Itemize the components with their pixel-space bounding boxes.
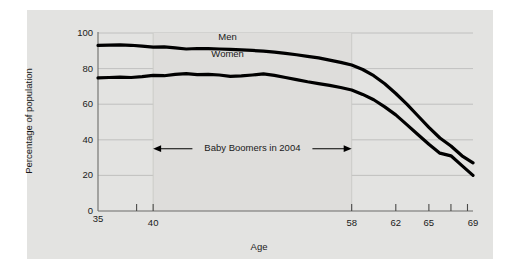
- x-axis-title: Age: [0, 236, 518, 254]
- x-tick-label-58: 58: [336, 217, 368, 228]
- y-axis-title-text: Percentage of population: [23, 68, 34, 174]
- series-label-men: Men: [218, 31, 236, 42]
- y-tick-label-20: 20: [60, 169, 93, 180]
- y-tick-label-60: 60: [60, 98, 93, 109]
- x-tick-label-40: 40: [137, 217, 169, 228]
- y-tick-label-40: 40: [60, 134, 93, 145]
- x-tick-label-69: 69: [457, 217, 489, 228]
- y-axis-title: Percentage of population: [18, 56, 36, 186]
- baby-boomer-annotation-text: Baby Boomers in 2004: [196, 142, 308, 153]
- x-tick-label-65: 65: [413, 217, 445, 228]
- y-tick-label-80: 80: [60, 63, 93, 74]
- series-label-women: Women: [211, 48, 244, 59]
- chart-figure: 020406080100 354058626569 Percentage of …: [0, 0, 518, 270]
- y-tick-label-100: 100: [60, 27, 93, 38]
- x-tick-label-62: 62: [380, 217, 412, 228]
- x-tick-label-35: 35: [82, 213, 114, 224]
- x-axis-title-text: Age: [251, 241, 268, 252]
